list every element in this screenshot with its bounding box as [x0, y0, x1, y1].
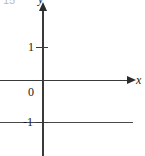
y-axis-line	[42, 8, 44, 156]
x-axis-line	[0, 80, 131, 81]
origin-label: 0	[28, 86, 34, 98]
y-tick-label-positive-one: 1	[28, 41, 34, 53]
x-axis-label: x	[136, 74, 141, 86]
y-axis-label: y	[38, 0, 43, 5]
y-tick-label-negative-one: -1	[23, 116, 33, 128]
y-tick-negative-one	[36, 122, 48, 123]
coordinate-axes-figure: 15 1 0 -1 x y	[0, 0, 145, 156]
figure-number-label: 15	[3, 0, 15, 6]
y-tick-positive-one	[36, 47, 48, 48]
graph-line-y-equals-negative-one	[0, 122, 133, 123]
x-axis-arrow-icon	[127, 76, 136, 84]
